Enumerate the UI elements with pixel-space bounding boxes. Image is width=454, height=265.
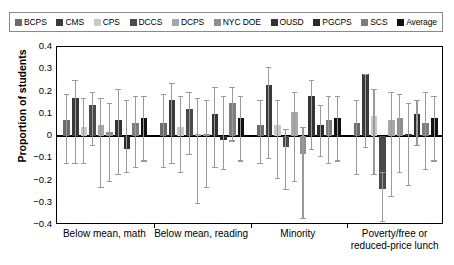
legend-item-label: NYC DOE	[223, 17, 261, 27]
bar-slot-scs[interactable]	[421, 47, 430, 223]
error-bar-cap	[90, 145, 95, 146]
bar-slot-nyc-doe[interactable]	[105, 47, 114, 223]
bar-slot-dcps[interactable]	[194, 47, 203, 223]
error-bar-cap	[354, 100, 359, 101]
legend-item-cps[interactable]: CPS	[94, 17, 120, 27]
error-bar-cap	[380, 221, 385, 222]
legend-item-dccs[interactable]: DCCS	[130, 17, 163, 27]
error-bar	[382, 172, 383, 221]
legend-item-pgcps[interactable]: PGCPS	[313, 17, 351, 27]
bar-slot-cps[interactable]	[80, 47, 89, 223]
error-bar-cap	[300, 218, 305, 219]
bar-slot-pgcps[interactable]	[316, 47, 325, 223]
bar-slot-cms[interactable]	[168, 47, 177, 223]
error-bar-cap	[397, 172, 402, 173]
bar-slot-cps[interactable]	[176, 47, 185, 223]
legend-item-label: Average	[406, 17, 437, 27]
legend-item-ousd[interactable]: OUSD	[271, 17, 304, 27]
error-bar-cap	[266, 158, 271, 159]
error-bar-cap	[90, 92, 95, 93]
error-bar-cap	[178, 96, 183, 97]
error-bar-cap	[431, 96, 436, 97]
bar-slot-ousd[interactable]	[211, 47, 220, 223]
bar-slot-dcps[interactable]	[290, 47, 299, 223]
error-bar-cap	[124, 100, 129, 101]
error-bar-cap	[204, 187, 209, 188]
bar-slot-ousd[interactable]	[114, 47, 123, 223]
bar-slot-dccs[interactable]	[88, 47, 97, 223]
error-bar	[109, 103, 110, 181]
error-bar-cap	[98, 98, 103, 99]
bar-slot-ousd[interactable]	[404, 47, 413, 223]
bar-slot-bcps[interactable]	[353, 47, 362, 223]
legend-item-average[interactable]: Average	[397, 17, 437, 27]
bar-slot-pgcps[interactable]	[219, 47, 228, 223]
bar-slot-pgcps[interactable]	[413, 47, 422, 223]
bar-slot-cps[interactable]	[273, 47, 282, 223]
error-bar-cap	[371, 89, 376, 90]
error-bar-cap	[292, 92, 297, 93]
error-bar-cap	[169, 83, 174, 84]
error-bar-cap	[133, 167, 138, 168]
legend-item-bcps[interactable]: BCPS	[15, 17, 47, 27]
error-bar-cap	[423, 92, 428, 93]
error-bar	[285, 129, 286, 189]
bar-slot-cms[interactable]	[265, 47, 274, 223]
error-bar-cap	[141, 160, 146, 161]
error-bar	[391, 92, 392, 197]
bar-slot-average[interactable]	[140, 47, 149, 223]
error-bar	[180, 96, 181, 172]
x-axis-category-labels: Below mean, mathBelow mean, readingMinor…	[56, 228, 443, 251]
error-bar	[337, 96, 338, 161]
bar-slot-dcps[interactable]	[387, 47, 396, 223]
bar-slot-cps[interactable]	[370, 47, 379, 223]
bar-slot-bcps[interactable]	[159, 47, 168, 223]
error-bar-cap	[107, 181, 112, 182]
bar-slot-bcps[interactable]	[62, 47, 71, 223]
error-bar-cap	[195, 98, 200, 99]
bar-slot-nyc-doe[interactable]	[396, 47, 405, 223]
legend-item-nyc-doe[interactable]: NYC DOE	[214, 17, 261, 27]
bar-slot-bcps[interactable]	[256, 47, 265, 223]
bar-slot-nyc-doe[interactable]	[299, 47, 308, 223]
bar-slot-average[interactable]	[430, 47, 439, 223]
error-bar-cap	[64, 163, 69, 164]
error-bar-cap	[72, 80, 77, 81]
error-bar-cap	[300, 127, 305, 128]
bar-slot-scs[interactable]	[131, 47, 140, 223]
bar-slot-cms[interactable]	[71, 47, 80, 223]
error-bar-cap	[221, 169, 226, 170]
error-bar	[311, 80, 312, 149]
error-bar-cap	[186, 154, 191, 155]
bar-slot-nyc-doe[interactable]	[202, 47, 211, 223]
chart-root: BCPSCMSCPSDCCSDCPSNYC DOEOUSDPGCPSSCSAve…	[0, 0, 454, 265]
bar-slot-pgcps[interactable]	[123, 47, 132, 223]
error-bar	[268, 67, 269, 158]
error-bar-cap	[414, 145, 419, 146]
bar-slot-ousd[interactable]	[307, 47, 316, 223]
legend-item-cms[interactable]: CMS	[56, 17, 84, 27]
error-bar-cap	[257, 100, 262, 101]
error-bar	[92, 92, 93, 145]
y-tick-label: −0.2	[22, 175, 52, 185]
bar-slot-scs[interactable]	[228, 47, 237, 223]
bar-slot-scs[interactable]	[325, 47, 334, 223]
bar-slot-dccs[interactable]	[282, 47, 291, 223]
legend-item-dcps[interactable]: DCPS	[172, 17, 204, 27]
bar-slot-average[interactable]	[333, 47, 342, 223]
bar-slot-average[interactable]	[237, 47, 246, 223]
bar-slot-dccs[interactable]	[378, 47, 387, 223]
error-bar-cap	[81, 98, 86, 99]
legend-item-label: CMS	[65, 17, 84, 27]
bar-slot-dccs[interactable]	[185, 47, 194, 223]
error-bar-cap	[72, 163, 77, 164]
error-bar-cap	[275, 178, 280, 179]
error-bar	[232, 87, 233, 140]
legend-item-scs[interactable]: SCS	[361, 17, 387, 27]
error-bar-cap	[178, 172, 183, 173]
bar-slot-dcps[interactable]	[97, 47, 106, 223]
error-bar-cap	[212, 87, 217, 88]
error-bar-cap	[161, 167, 166, 168]
error-bar	[294, 92, 295, 181]
bar-slot-cms[interactable]	[361, 47, 370, 223]
